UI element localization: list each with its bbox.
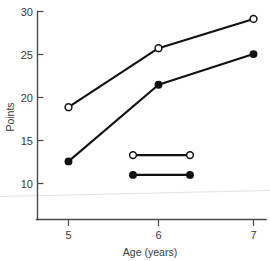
legend-bar-filled-marker-left [130,172,136,178]
scan-artifact-line [0,191,270,197]
y-tick-label-30: 30 [21,6,33,18]
data-point-filled-5 [65,158,71,164]
y-tick-label-20: 20 [21,92,33,104]
x-tick-label-6: 6 [155,229,161,241]
legend-bar-open-marker-left [130,152,137,159]
x-axis-title: Age (years) [123,246,177,258]
data-point-open-5 [65,104,72,111]
legend-bar-filled-circle [130,172,193,178]
line-chart: 30 25 20 15 10 5 6 7 Age (years) Points [0,0,270,261]
data-point-open-7 [250,16,257,23]
x-tick-label-5: 5 [65,229,71,241]
legend-bar-open-circle [130,152,194,159]
x-tick-label-7: 7 [250,229,256,241]
y-axis-title: Points [4,102,16,131]
data-point-filled-6 [155,82,161,88]
data-point-filled-7 [250,51,256,57]
y-axis-ticks [38,12,44,184]
y-tick-label-25: 25 [21,49,33,61]
legend-bar-open-marker-right [187,152,194,159]
x-axis-ticks [69,220,254,227]
chart-figure: 30 25 20 15 10 5 6 7 Age (years) Points [0,0,270,261]
series-line-filled-circle [69,54,254,161]
legend-bar-filled-marker-right [187,172,193,178]
y-tick-label-10: 10 [21,178,33,190]
y-tick-label-15: 15 [21,135,33,147]
data-point-open-6 [155,45,162,52]
